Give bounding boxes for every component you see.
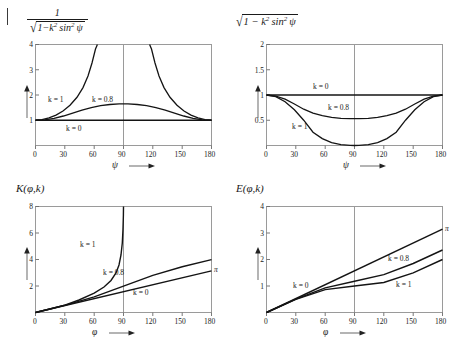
xtick-label: 120 bbox=[145, 317, 156, 326]
y-tick-marks bbox=[36, 45, 40, 121]
curve-label-k1: k = 1 bbox=[396, 280, 411, 289]
y-axis-arrow bbox=[24, 85, 30, 118]
panel-title-reciprocal: 1 √1−k2 sin2 ψ bbox=[27, 8, 88, 33]
y-tick-marks bbox=[267, 207, 271, 287]
curve-label-k08: k = 0.8 bbox=[388, 254, 409, 263]
xtick-label: 0 bbox=[264, 150, 268, 159]
curve-label-k08: k = 0.8 bbox=[103, 268, 124, 277]
xtick-label: 120 bbox=[376, 150, 387, 159]
sqrt-icon: √ bbox=[236, 14, 243, 28]
sqrt-icon: √ bbox=[30, 20, 37, 34]
x-axis-arrow bbox=[129, 163, 155, 168]
xtick-label: 60 bbox=[320, 150, 328, 159]
ytick-label: 3 bbox=[27, 66, 33, 75]
panel-elliptic-E: E(φ,k) bbox=[231, 175, 462, 350]
sqrt-radicand: 1 − k2 sin2 ψ bbox=[242, 14, 298, 27]
ytick-label: 4 bbox=[26, 255, 33, 264]
x-axis-arrow bbox=[360, 163, 386, 168]
xtick-label: 30 bbox=[60, 150, 68, 159]
xtick-label: 150 bbox=[175, 150, 186, 159]
curve-label-k0: k = 0 bbox=[66, 124, 81, 133]
xtick-label: 180 bbox=[435, 150, 446, 159]
xtick-label: 60 bbox=[89, 150, 97, 159]
curve-label-k08: k = 0.8 bbox=[328, 103, 349, 112]
xtick-label: 120 bbox=[145, 150, 156, 159]
ytick-label: 1 bbox=[257, 282, 264, 291]
curve-k1 bbox=[36, 207, 124, 313]
x-tick-marks bbox=[36, 313, 212, 317]
fraction-numerator: 1 bbox=[27, 8, 88, 19]
panel-title-E: E(φ,k) bbox=[236, 183, 264, 195]
xtick-label: 0 bbox=[33, 150, 37, 159]
xaxis-label: ψ bbox=[343, 160, 349, 170]
ytick-label: 2 bbox=[27, 91, 33, 100]
ytick-label: 4 bbox=[27, 40, 33, 49]
xtick-label: 180 bbox=[435, 317, 446, 326]
ytick-label: 1 bbox=[249, 91, 264, 100]
pi-annotation: π bbox=[214, 265, 218, 274]
ytick-label: 2 bbox=[26, 282, 33, 291]
xtick-label: 180 bbox=[204, 317, 215, 326]
xtick-label: 60 bbox=[320, 317, 328, 326]
x-axis-arrow bbox=[109, 330, 135, 335]
curve-label-k1: k = 1 bbox=[80, 240, 95, 249]
ytick-label: 0.5 bbox=[249, 116, 264, 125]
pi-annotation: π bbox=[445, 224, 449, 233]
xtick-label: 0 bbox=[264, 317, 268, 326]
xtick-label: 60 bbox=[89, 317, 97, 326]
fraction-denominator: √1−k2 sin2 ψ bbox=[27, 21, 88, 34]
xtick-label: 180 bbox=[204, 150, 215, 159]
x-tick-marks bbox=[267, 313, 443, 317]
xtick-label: 0 bbox=[33, 317, 37, 326]
xtick-label: 150 bbox=[175, 317, 186, 326]
y-tick-marks bbox=[36, 207, 40, 287]
panel-elliptic-K: K(φ,k) bbox=[0, 175, 231, 350]
xtick-label: 30 bbox=[291, 317, 299, 326]
panel-integrand-sqrt: √1 − k2 sin2 ψ bbox=[231, 0, 462, 175]
ytick-label: 6 bbox=[26, 229, 33, 238]
curve-label-k1: k = 1 bbox=[48, 95, 63, 104]
xtick-label: 30 bbox=[291, 150, 299, 159]
y-axis-arrow bbox=[255, 85, 261, 118]
panel-integrand-reciprocal: 1 √1−k2 sin2 ψ bbox=[0, 0, 231, 175]
xaxis-label: φ bbox=[92, 327, 97, 337]
xtick-label: 90 bbox=[349, 317, 357, 326]
curve-label-k0: k = 0 bbox=[293, 281, 308, 290]
xtick-label: 120 bbox=[376, 317, 387, 326]
xtick-label: 150 bbox=[406, 150, 417, 159]
xtick-label: 90 bbox=[118, 317, 126, 326]
x-axis-arrow bbox=[340, 330, 366, 335]
curve-label-k08: k = 0.8 bbox=[92, 95, 113, 104]
curve-label-k0: k = 0 bbox=[133, 288, 148, 297]
ytick-label: 3 bbox=[257, 229, 264, 238]
panel-title-K: K(φ,k) bbox=[16, 183, 44, 195]
ytick-label: 2 bbox=[249, 40, 264, 49]
ytick-label: 2 bbox=[257, 255, 264, 264]
y-tick-marks bbox=[267, 45, 271, 121]
curve-label-k1: k = 1 bbox=[292, 122, 307, 131]
curve-label-k0: k = 0 bbox=[313, 82, 328, 91]
ytick-label: 8 bbox=[26, 202, 33, 211]
ytick-label: 4 bbox=[257, 202, 264, 211]
xaxis-label: φ bbox=[323, 327, 328, 337]
xtick-label: 150 bbox=[406, 317, 417, 326]
xaxis-label: ψ bbox=[112, 160, 118, 170]
xtick-label: 90 bbox=[349, 150, 357, 159]
xtick-label: 30 bbox=[60, 317, 68, 326]
xtick-label: 90 bbox=[118, 150, 126, 159]
panel-title-sqrt: √1 − k2 sin2 ψ bbox=[236, 14, 298, 27]
x-tick-marks bbox=[36, 146, 212, 150]
ytick-label: 1 bbox=[27, 116, 33, 125]
figure-page: 1 √1−k2 sin2 ψ bbox=[0, 0, 462, 350]
sqrt-radicand: 1−k2 sin2 ψ bbox=[36, 21, 85, 33]
ytick-label: 1.5 bbox=[249, 66, 264, 75]
